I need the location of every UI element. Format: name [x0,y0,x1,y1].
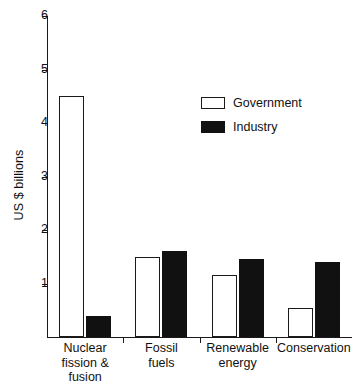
y-axis-title: US $ billions [12,140,26,230]
category-label-line: Conservation [276,341,352,356]
legend-item-industry: Industry [201,118,302,136]
category-label-line: energy [200,356,276,371]
bar-government-3 [288,308,313,337]
y-axis-tick-label: 5 [24,63,48,75]
category-label-line: Fossil [123,341,199,356]
category-label-line: fission & [47,356,123,371]
y-axis-tick: 1 [0,284,48,285]
plot-area [47,16,352,337]
bar-industry-2 [239,259,264,337]
y-axis-tick-label: 6 [24,9,48,21]
category-label-line: Renewable [200,341,276,356]
y-axis-tick: 2 [0,230,48,231]
bar-industry-3 [315,262,340,337]
category-label-line: fuels [123,356,199,371]
chart-legend: GovernmentIndustry [201,94,302,142]
y-axis-tick: 5 [0,70,48,71]
bar-industry-0 [86,316,111,337]
x-axis-category-label: Nuclearfission &fusion [47,341,123,385]
y-axis-tick-label: 1 [24,277,48,289]
y-axis-tick-label: 3 [24,170,48,182]
legend-item-government: Government [201,94,302,112]
legend-swatch-government [201,97,225,109]
y-axis-tick: 4 [0,123,48,124]
bar-industry-1 [162,251,187,337]
x-axis-category-label: Fossilfuels [123,341,199,370]
bar-chart: 123456 US $ billions Nuclearfission &fus… [0,0,359,388]
legend-label: Industry [233,121,277,134]
category-label-line: Nuclear [47,341,123,356]
y-axis-tick-label: 4 [24,116,48,128]
x-axis-category-label: Renewableenergy [200,341,276,370]
y-axis-tick: 6 [0,16,48,17]
category-label-line: fusion [47,370,123,385]
x-axis-category-label: Conservation [276,341,352,356]
y-axis-tick-label: 2 [24,223,48,235]
legend-swatch-industry [201,121,225,133]
bar-government-2 [212,275,237,337]
legend-label: Government [233,97,302,110]
bar-government-1 [135,257,160,337]
bar-government-0 [59,96,84,337]
